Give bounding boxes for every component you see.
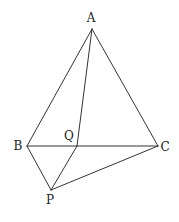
point-label-b: B xyxy=(14,139,23,153)
segment-pq xyxy=(51,146,77,190)
geometry-diagram: A B Q C P xyxy=(0,0,179,222)
point-label-p: P xyxy=(46,193,54,207)
segment-ab xyxy=(27,29,92,146)
segment-ac xyxy=(92,29,158,146)
segments-group xyxy=(27,29,158,190)
segment-aq xyxy=(77,29,92,146)
labels-group: A B Q C P xyxy=(14,11,170,207)
point-label-c: C xyxy=(160,140,169,154)
segment-pc xyxy=(51,146,158,190)
point-label-q: Q xyxy=(64,129,74,143)
segment-bp xyxy=(27,146,51,190)
point-label-a: A xyxy=(86,11,96,25)
